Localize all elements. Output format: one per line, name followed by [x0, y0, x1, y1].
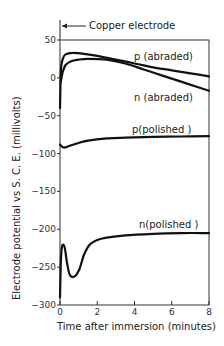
annotation-copper-electrode: Copper electrode	[89, 20, 175, 31]
plot-frame	[60, 40, 209, 305]
y-tick-label: −50	[37, 111, 56, 121]
chart-axes: 500−50−100−150−200−250−30002468	[31, 35, 212, 317]
label-n-abraded: n (abraded)	[134, 92, 193, 103]
y-tick-label: 0	[50, 73, 56, 83]
y-tick-label: −100	[31, 149, 56, 159]
chart-labels: Copper electrode p (abraded) n (abraded)…	[11, 20, 216, 332]
x-tick-label: 0	[57, 307, 63, 317]
arrow-head-icon	[62, 24, 67, 29]
x-tick-label: 4	[132, 307, 138, 317]
label-n-polished: n(polished )	[139, 219, 198, 230]
series-p-polished	[60, 136, 209, 147]
x-tick-label: 2	[94, 307, 100, 317]
x-tick-label: 8	[206, 307, 212, 317]
chart-series	[60, 53, 209, 298]
series-n-polished	[60, 233, 209, 297]
y-tick-label: 50	[45, 35, 57, 45]
y-tick-label: −250	[31, 262, 56, 272]
y-tick-label: −200	[31, 224, 56, 234]
label-p-polished: p(polished )	[132, 124, 191, 135]
y-axis-label: Electrode potential vs S. C. E. (millivo…	[11, 96, 22, 300]
chart: 500−50−100−150−200−250−30002468 Copper e…	[0, 0, 224, 346]
x-tick-label: 6	[169, 307, 175, 317]
y-tick-label: −300	[31, 300, 56, 310]
x-axis-label: Time after immersion (minutes)	[56, 321, 216, 332]
y-tick-label: −150	[31, 186, 56, 196]
label-p-abraded: p (abraded)	[134, 51, 193, 62]
